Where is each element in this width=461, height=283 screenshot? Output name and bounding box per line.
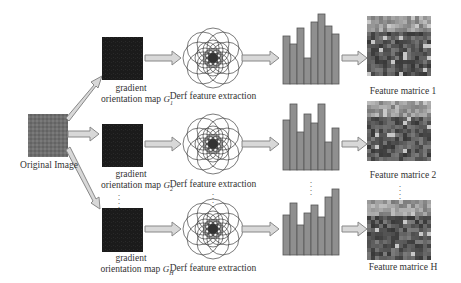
feature-matrix-2 xyxy=(367,101,431,161)
gradient-map-1 xyxy=(102,37,143,80)
feature-matrix-label-2: Feature matrice 2 xyxy=(358,170,448,181)
feature-matrix-label-1: Feature matrice 1 xyxy=(358,86,448,97)
ellipsis-histogram: ···· xyxy=(308,180,314,196)
derf-pattern-2 xyxy=(183,114,243,174)
derf-pattern-1 xyxy=(183,28,243,88)
original-image-label: Original Image xyxy=(14,160,84,171)
arrow-hist-to-matrix-1 xyxy=(342,51,367,65)
gradient-map-H xyxy=(102,208,143,252)
arrow-to-row2 xyxy=(68,127,99,141)
arrow-derf-to-hist-1 xyxy=(242,51,279,65)
arrow-map-to-derf-2 xyxy=(145,137,181,151)
ellipsis-gradient: ···· xyxy=(116,193,122,209)
arrow-derf-to-hist-2 xyxy=(242,137,279,151)
arrow-map-to-derf-H xyxy=(145,222,181,236)
derf-label-1: Derf feature extraction xyxy=(163,91,263,102)
feature-matrix-H xyxy=(367,200,431,260)
histogram-1 xyxy=(283,14,339,84)
arrow-hist-to-matrix-2 xyxy=(342,137,367,151)
feature-matrix-label-H: Feature matrice H xyxy=(358,262,448,273)
arrow-hist-to-matrix-H xyxy=(342,222,367,236)
ellipsis-matrix: ···· xyxy=(397,184,403,200)
ellipsis-derf: ···· xyxy=(210,192,216,208)
feature-matrix-1 xyxy=(367,16,431,76)
histogram-2 xyxy=(283,104,339,170)
diagram-canvas xyxy=(0,0,461,283)
original-image xyxy=(28,114,68,157)
gradient-map-2 xyxy=(102,124,143,167)
derf-label-H: Derf feature extraction xyxy=(163,263,263,274)
arrow-map-to-derf-1 xyxy=(145,51,181,65)
arrow-derf-to-hist-H xyxy=(242,222,279,236)
